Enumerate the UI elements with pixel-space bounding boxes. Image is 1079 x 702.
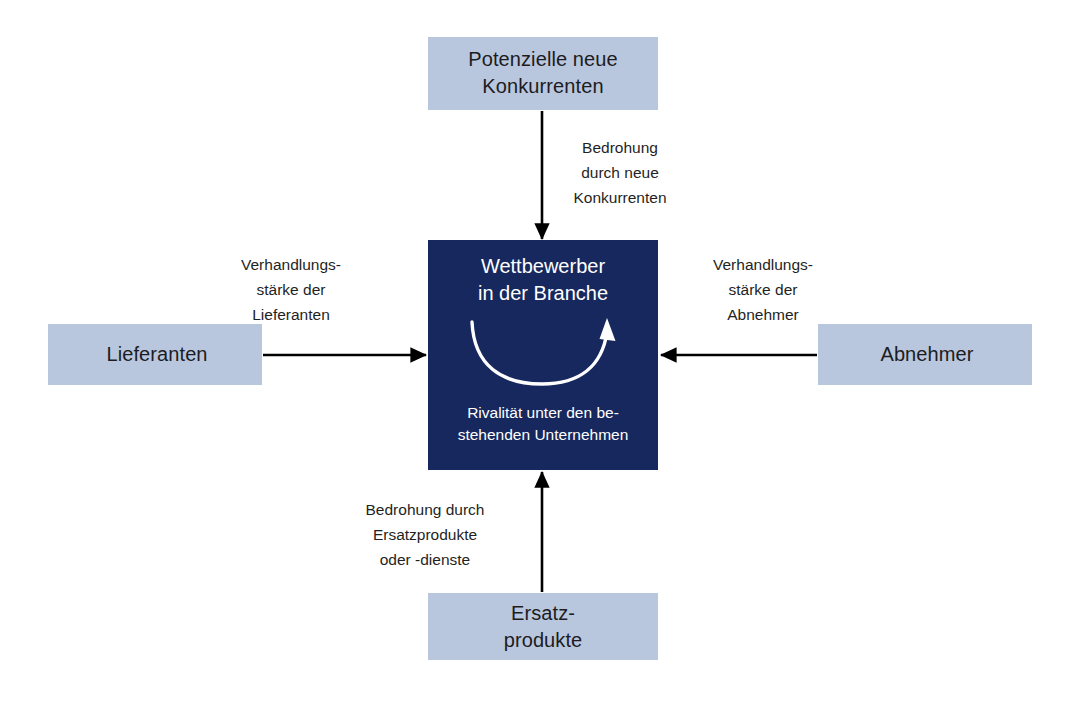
edge-label-suppliers: Verhandlungs- stärke der Lieferanten (196, 252, 386, 327)
force-box-substitutes-line2: produkte (504, 627, 583, 653)
force-box-new-entrants-line1: Potenzielle neue (468, 46, 618, 72)
force-box-substitutes-line1: Ersatz- (504, 600, 583, 626)
curved-rivalry-arrow-icon (468, 318, 618, 392)
center-box-subtitle: Rivalität unter den be- stehenden Untern… (428, 402, 658, 447)
force-box-suppliers[interactable]: Lieferanten (48, 324, 262, 385)
force-box-substitutes[interactable]: Ersatz- produkte (428, 593, 658, 660)
force-box-new-entrants-label: Potenzielle neue Konkurrenten (468, 46, 618, 99)
center-box-title-line2: in der Branche (428, 280, 658, 307)
center-box-industry-competitors[interactable]: Wettbewerber in der Branche Rivalität un… (428, 240, 658, 470)
center-box-title-line1: Wettbewerber (428, 253, 658, 280)
force-box-suppliers-label: Lieferanten (106, 341, 207, 367)
force-box-new-entrants[interactable]: Potenzielle neue Konkurrenten (428, 37, 658, 110)
five-forces-diagram: Potenzielle neue Konkurrenten Lieferante… (0, 0, 1079, 702)
edge-label-substitutes: Bedrohung durch Ersatzprodukte oder -die… (315, 497, 535, 572)
force-box-new-entrants-line2: Konkurrenten (468, 73, 618, 99)
center-box-subtitle-line2: stehenden Unternehmen (428, 424, 658, 446)
center-box-subtitle-line1: Rivalität unter den be- (428, 402, 658, 424)
force-box-buyers-label: Abnehmer (880, 341, 973, 367)
edge-label-new-entrants: Bedrohung durch neue Konkurrenten (520, 135, 720, 210)
force-box-buyers[interactable]: Abnehmer (818, 324, 1032, 385)
force-box-substitutes-label: Ersatz- produkte (504, 600, 583, 653)
center-box-title: Wettbewerber in der Branche (428, 253, 658, 307)
edge-label-buyers: Verhandlungs- stärke der Abnehmer (668, 252, 858, 327)
